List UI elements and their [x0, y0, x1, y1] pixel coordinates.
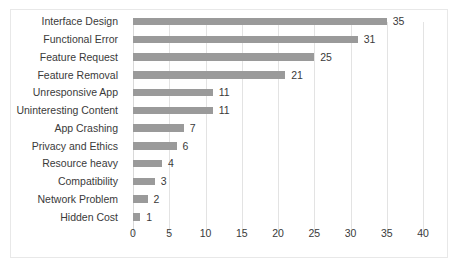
category-label: Unresponsive App: [0, 87, 118, 98]
bar[interactable]: [133, 178, 155, 186]
category-label: Feature Removal: [0, 70, 118, 81]
bar-row[interactable]: App Crashing7: [0, 119, 460, 138]
x-tick-label: 25: [308, 228, 320, 239]
bar-row[interactable]: Hidden Cost1: [0, 207, 460, 226]
category-label: Uninteresting Content: [0, 105, 118, 116]
x-tick-label: 35: [381, 228, 393, 239]
bar-row[interactable]: Feature Request25: [0, 48, 460, 67]
bar-wrapper: 21: [133, 65, 303, 84]
category-label: Functional Error: [0, 34, 118, 45]
bar[interactable]: [133, 213, 140, 221]
category-label: Feature Request: [0, 52, 118, 63]
category-label: Privacy and Ethics: [0, 141, 118, 152]
bar[interactable]: [133, 71, 285, 79]
bar-chart-figure: Interface Design35Functional Error31Feat…: [0, 0, 460, 279]
x-tick-label: 0: [130, 228, 136, 239]
bar-wrapper: 31: [133, 30, 375, 49]
bar-value-label: 2: [154, 194, 160, 205]
bar[interactable]: [133, 142, 177, 150]
x-tick-label: 40: [417, 228, 429, 239]
bar-value-label: 1: [146, 212, 152, 223]
bar-value-label: 3: [161, 176, 167, 187]
bar-row[interactable]: Network Problem2: [0, 190, 460, 209]
category-label: Hidden Cost: [0, 212, 118, 223]
bar[interactable]: [133, 124, 184, 132]
bar-wrapper: 4: [133, 154, 174, 173]
bar[interactable]: [133, 36, 358, 44]
x-tick-label: 5: [166, 228, 172, 239]
bar-row[interactable]: Functional Error31: [0, 30, 460, 49]
bar-row[interactable]: Feature Removal21: [0, 65, 460, 84]
bar-wrapper: 6: [133, 136, 188, 155]
bar-wrapper: 35: [133, 12, 404, 31]
category-label: App Crashing: [0, 123, 118, 134]
x-tick-label: 30: [345, 228, 357, 239]
bar-row[interactable]: Interface Design35: [0, 12, 460, 31]
x-tick-label: 10: [200, 228, 212, 239]
bar-value-label: 25: [320, 52, 332, 63]
x-tick-label: 15: [236, 228, 248, 239]
category-label: Interface Design: [0, 16, 118, 27]
bar[interactable]: [133, 107, 213, 115]
bar-value-label: 35: [393, 16, 405, 27]
bar-row[interactable]: Uninteresting Content11: [0, 101, 460, 120]
bar[interactable]: [133, 160, 162, 168]
bar-wrapper: 1: [133, 207, 152, 226]
bar-value-label: 21: [291, 70, 303, 81]
bar[interactable]: [133, 18, 387, 26]
bar-row[interactable]: Privacy and Ethics6: [0, 136, 460, 155]
bar-wrapper: 7: [133, 119, 196, 138]
bar[interactable]: [133, 195, 148, 203]
bar[interactable]: [133, 89, 213, 97]
bar-rows-group: Interface Design35Functional Error31Feat…: [0, 12, 460, 225]
x-axis: 0510152025303540: [0, 225, 460, 245]
bar-value-label: 4: [168, 158, 174, 169]
bar-value-label: 11: [219, 105, 230, 116]
bar-value-label: 31: [364, 34, 376, 45]
bar-row[interactable]: Resource heavy4: [0, 154, 460, 173]
category-label: Network Problem: [0, 194, 118, 205]
bar-wrapper: 11: [133, 83, 230, 102]
bar-wrapper: 2: [133, 190, 159, 209]
x-tick-label: 20: [272, 228, 284, 239]
bar[interactable]: [133, 53, 314, 61]
category-label: Compatibility: [0, 176, 118, 187]
bar-wrapper: 3: [133, 172, 167, 191]
bar-row[interactable]: Compatibility3: [0, 172, 460, 191]
bar-value-label: 7: [190, 123, 196, 134]
category-label: Resource heavy: [0, 158, 118, 169]
bar-wrapper: 25: [133, 48, 332, 67]
bar-wrapper: 11: [133, 101, 230, 120]
bar-row[interactable]: Unresponsive App11: [0, 83, 460, 102]
bar-value-label: 11: [219, 87, 230, 98]
bar-value-label: 6: [183, 141, 189, 152]
